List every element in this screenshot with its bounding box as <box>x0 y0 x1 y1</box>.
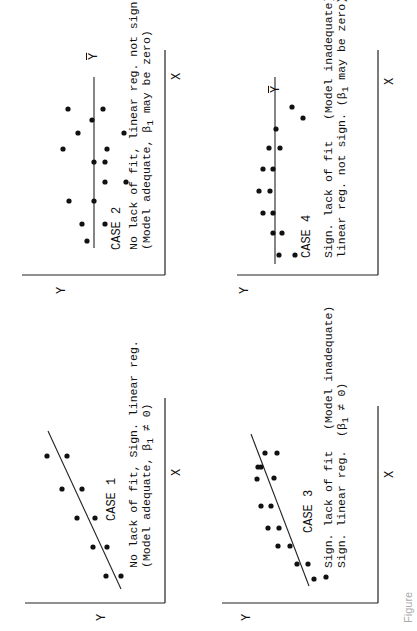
case-4-desc-line-2: linear reg. not sign. (β <box>335 92 348 258</box>
case-4-desc-line-2b: may be zero) <box>335 0 348 87</box>
figure-page: Y X CASE 1 No lack of fit, Sign. linear … <box>0 0 417 631</box>
case-4-plot <box>0 0 417 631</box>
case-4-desc-line-1: Sign. lack of fit (Model inadequate) <box>322 0 335 258</box>
case-4-title: CASE 4 <box>300 215 314 258</box>
figure-caption: Figure <box>402 592 414 623</box>
case-4-x-label: X <box>383 78 397 85</box>
beta-subscript: 1 <box>340 87 351 93</box>
case-4-description: Sign. lack of fit (Model inadequate) lin… <box>322 0 352 258</box>
case-4-y-label: Y <box>238 287 252 294</box>
case-4-ybar-label: Y <box>269 86 283 93</box>
